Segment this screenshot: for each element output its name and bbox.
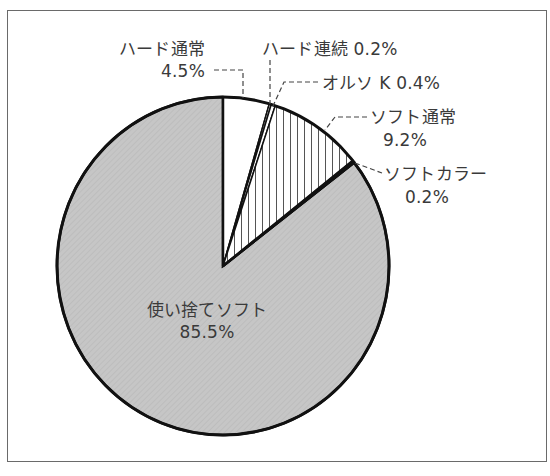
label-hard-continuous: ハード連続 0.2% <box>262 39 398 59</box>
label-ortho-k: オルソ K 0.4% <box>322 73 440 93</box>
label-soft-color-name: ソフトカラー <box>384 164 487 184</box>
leader-hard-normal <box>214 70 243 98</box>
leader-soft-normal <box>325 117 367 130</box>
leader-ortho-k <box>273 82 318 106</box>
label-disposable-soft-value: 85.5% <box>132 322 282 342</box>
label-soft-color-value: 0.2% <box>405 187 449 207</box>
label-hard-normal-value: 4.5% <box>161 61 205 81</box>
pie-chart <box>0 0 550 476</box>
label-soft-normal-name: ソフト通常 <box>370 107 456 127</box>
label-hard-normal-name: ハード通常 <box>119 39 205 59</box>
label-soft-normal-value: 9.2% <box>383 130 427 150</box>
label-disposable-soft-name: 使い捨てソフト <box>132 300 282 320</box>
